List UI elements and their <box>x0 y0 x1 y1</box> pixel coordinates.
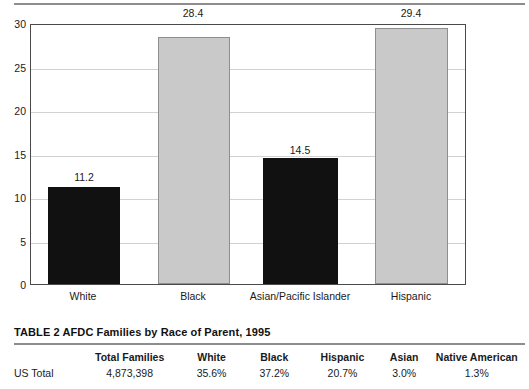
y-tick-20: 20 <box>0 106 26 117</box>
column-header-native-american: Native American <box>429 349 525 366</box>
bar-value-black: 28.4 <box>143 8 243 19</box>
category-label-white: White <box>23 291 143 302</box>
bar-value-asian-pi: 14.5 <box>250 145 350 156</box>
bar-value-white: 11.2 <box>34 172 134 183</box>
cell-total-families: 4,873,398 <box>80 366 180 381</box>
cell-asian: 3.0% <box>380 366 429 381</box>
column-header-blank <box>14 349 80 366</box>
table-row: US Total 4,873,398 35.6% 37.2% 20.7% 3.0… <box>14 366 525 381</box>
category-label-hispanic: Hispanic <box>351 291 471 302</box>
table-divider <box>14 343 525 345</box>
table-header-row: Total Families White Black Hispanic Asia… <box>14 349 525 366</box>
column-header-asian: Asian <box>380 349 429 366</box>
y-axis: 30 25 20 15 10 5 0 <box>0 24 30 285</box>
bar-value-hispanic: 29.4 <box>361 8 461 19</box>
afdc-bar-chart: 30 25 20 15 10 5 0 11.2 28.4 14.5 29.4 W… <box>0 0 529 310</box>
column-header-white: White <box>180 349 244 366</box>
y-tick-0: 0 <box>0 280 26 291</box>
category-label-asian-pi: Asian/Pacific Islander <box>240 291 360 302</box>
plot-frame <box>30 24 466 285</box>
afdc-table: Total Families White Black Hispanic Asia… <box>14 349 525 381</box>
cell-hispanic: 20.7% <box>305 366 379 381</box>
row-label-us-total: US Total <box>14 366 80 381</box>
afdc-table-block: TABLE 2 AFDC Families by Race of Parent,… <box>14 326 525 381</box>
y-tick-5: 5 <box>0 237 26 248</box>
cell-native-american: 1.3% <box>429 366 525 381</box>
y-tick-30: 30 <box>0 19 26 30</box>
cell-white: 35.6% <box>180 366 244 381</box>
category-label-black: Black <box>133 291 253 302</box>
y-tick-15: 15 <box>0 150 26 161</box>
bar-black <box>158 37 230 284</box>
y-tick-10: 10 <box>0 193 26 204</box>
y-tick-25: 25 <box>0 63 26 74</box>
bar-white <box>48 187 120 284</box>
column-header-black: Black <box>243 349 305 366</box>
column-header-hispanic: Hispanic <box>305 349 379 366</box>
bar-asian-pi <box>263 158 338 284</box>
table-title: TABLE 2 AFDC Families by Race of Parent,… <box>14 326 525 343</box>
column-header-total-families: Total Families <box>80 349 180 366</box>
bar-hispanic <box>375 28 448 284</box>
cell-black: 37.2% <box>243 366 305 381</box>
